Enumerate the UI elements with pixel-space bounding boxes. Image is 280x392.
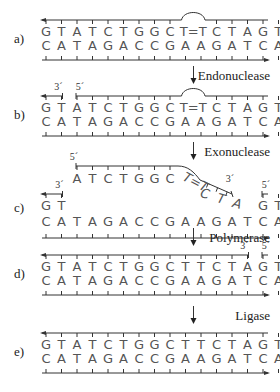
top-base: T xyxy=(57,259,66,274)
bottom-base: A xyxy=(228,38,237,53)
diagram-canvas: a)GTATCTGGCCTAGTT=TCATAGACCGAAGATCAb)GTA… xyxy=(0,0,280,392)
bottom-base: A xyxy=(57,351,66,366)
thymine-dimer: T=T xyxy=(179,100,207,115)
strand-end-label: 3´ xyxy=(54,81,62,92)
panel-label-e: e) xyxy=(14,344,24,359)
bottom-base: A xyxy=(274,114,280,129)
top-base: T xyxy=(181,337,190,352)
bottom-base: A xyxy=(274,214,280,229)
top-base: G xyxy=(149,337,159,352)
bottom-base: C xyxy=(150,38,159,53)
excised-base: T xyxy=(215,190,228,207)
excised-base: C xyxy=(165,171,174,186)
top-base: G xyxy=(41,337,51,352)
bottom-base: T xyxy=(72,38,81,53)
bottom-base: T xyxy=(243,114,252,129)
bottom-base: G xyxy=(165,214,175,229)
top-base: G xyxy=(134,24,144,39)
top-backbone-arrow-icon xyxy=(40,18,46,22)
panel-label-d: d) xyxy=(14,266,25,281)
top-base: T xyxy=(274,24,280,39)
bottom-base: T xyxy=(243,351,252,366)
bottom-base: A xyxy=(181,273,190,288)
top-base: G xyxy=(41,259,51,274)
bottom-base: T xyxy=(243,214,252,229)
bottom-base: T xyxy=(243,38,252,53)
excised-fragment-tick xyxy=(216,188,218,192)
bottom-base: C xyxy=(134,214,143,229)
top-base: C xyxy=(103,337,112,352)
bottom-backbone-arrow-icon xyxy=(264,58,270,62)
bottom-base: G xyxy=(165,273,175,288)
bottom-base: C xyxy=(134,38,143,53)
bottom-base: G xyxy=(103,273,113,288)
bottom-base: C xyxy=(258,38,267,53)
top-backbone-arrow-icon xyxy=(40,331,46,335)
bottom-base: A xyxy=(88,214,97,229)
remaining-right-base: G xyxy=(258,198,268,213)
bottom-base: G xyxy=(211,351,221,366)
top-base: T xyxy=(119,100,128,115)
bottom-base: A xyxy=(197,38,206,53)
bottom-backbone-arrow-icon xyxy=(264,371,270,375)
top-base: G xyxy=(258,259,268,274)
bottom-base: C xyxy=(41,273,50,288)
panel-label-c: c) xyxy=(14,200,24,215)
panel-label-a: a) xyxy=(14,31,24,46)
top-base: T xyxy=(57,100,66,115)
enzyme-label: Ligase xyxy=(235,308,270,323)
top-base: T xyxy=(274,100,280,115)
bottom-base: A xyxy=(197,351,206,366)
bottom-base: A xyxy=(57,114,66,129)
top-backbone-arrow-icon xyxy=(40,192,46,196)
bottom-base: A xyxy=(274,38,280,53)
bottom-base: G xyxy=(211,38,221,53)
top-base: G xyxy=(258,100,268,115)
bottom-base: C xyxy=(134,351,143,366)
bottom-base: A xyxy=(228,114,237,129)
bottom-base: C xyxy=(258,214,267,229)
bottom-base: C xyxy=(258,114,267,129)
top-base: A xyxy=(243,337,252,352)
excised-base: A xyxy=(73,171,82,186)
top-base: G xyxy=(134,100,144,115)
bottom-base: A xyxy=(119,351,128,366)
bottom-base: G xyxy=(103,351,113,366)
bottom-base: A xyxy=(119,273,128,288)
thymine-dimer: T=T xyxy=(179,24,207,39)
remaining-left-base: T xyxy=(57,198,66,213)
top-base: G xyxy=(149,24,159,39)
bottom-base: G xyxy=(165,38,175,53)
bottom-base: A xyxy=(181,351,190,366)
top-base: T xyxy=(196,337,205,352)
bottom-base: G xyxy=(211,114,221,129)
bottom-base: C xyxy=(41,351,50,366)
bottom-base: A xyxy=(88,38,97,53)
bottom-base: A xyxy=(88,351,97,366)
top-base: T xyxy=(119,24,128,39)
bottom-base: A xyxy=(197,214,206,229)
bottom-base: G xyxy=(165,351,175,366)
down-arrow-icon xyxy=(191,240,197,246)
excised-base: C xyxy=(103,171,112,186)
bottom-base: C xyxy=(258,273,267,288)
top-base: C xyxy=(165,100,174,115)
top-base: C xyxy=(165,337,174,352)
top-base: C xyxy=(165,24,174,39)
bottom-base: C xyxy=(150,351,159,366)
bottom-base: A xyxy=(88,273,97,288)
top-base: C xyxy=(212,337,221,352)
bottom-base: A xyxy=(197,273,206,288)
bottom-base: A xyxy=(57,273,66,288)
enzyme-label: Polymerase xyxy=(209,230,270,245)
strand-end-label: 5´ xyxy=(70,151,78,162)
bottom-base: A xyxy=(228,273,237,288)
dimer-bulge xyxy=(182,13,206,21)
top-base: C xyxy=(212,259,221,274)
top-base: G xyxy=(134,337,144,352)
bottom-base: T xyxy=(72,351,81,366)
enzyme-label: Endonuclease xyxy=(198,68,270,83)
bottom-base: A xyxy=(119,38,128,53)
bottom-base: A xyxy=(181,38,190,53)
enzyme-label: Exonuclease xyxy=(204,144,270,159)
